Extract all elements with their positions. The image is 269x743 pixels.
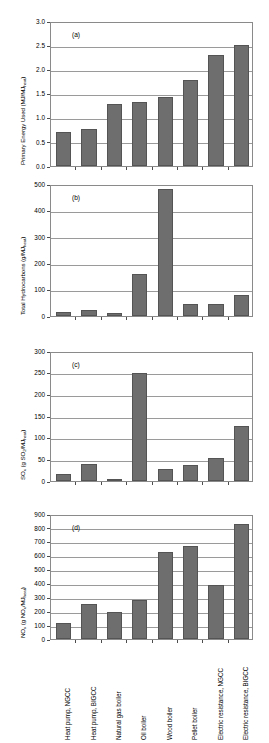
category-axis-label: Electric resistance, NGCC [218, 668, 224, 740]
panel-d-plot-area [50, 515, 253, 640]
y-axis-tick-mark [47, 528, 50, 529]
category-axis-label: Oil boiler [141, 716, 147, 740]
y-axis-tick-mark [47, 515, 50, 516]
bar [81, 604, 96, 639]
bar [234, 524, 249, 639]
category-axis-label: Heat pump, NGCC [65, 688, 71, 740]
bar [208, 585, 223, 639]
y-axis-tick-label: 100 [34, 623, 45, 629]
category-axis-label: Pellet boiler [192, 708, 198, 740]
category-axis-label: Natural gas boiler [116, 692, 122, 740]
y-axis-tick-label: 500 [34, 567, 45, 573]
panel-d: NOx (g NOx/MJheat) (d) 01002003004005006… [0, 0, 269, 743]
category-axis-label: Wood boiler [167, 707, 173, 740]
y-axis-tick-label: 300 [34, 595, 45, 601]
y-axis-tick-mark [47, 556, 50, 557]
y-axis-tick-label: 400 [34, 581, 45, 587]
gridline [51, 557, 252, 558]
y-axis-tick-mark [47, 612, 50, 613]
y-axis-tick-mark [47, 542, 50, 543]
category-axis-label: Heat pump, BIGCC [91, 687, 97, 740]
y-axis-tick-label: 700 [34, 539, 45, 545]
y-axis-tick-mark [47, 626, 50, 627]
gridline [51, 529, 252, 530]
category-axis-labels: Heat pump, NGCCHeat pump, BIGCCNatural g… [0, 640, 269, 743]
y-axis-tick-label: 600 [34, 553, 45, 559]
bar [56, 623, 71, 639]
gridline [51, 571, 252, 572]
y-axis-tick-mark [47, 584, 50, 585]
bar [107, 612, 122, 639]
y-axis-tick-label: 200 [34, 609, 45, 615]
bar [132, 600, 147, 639]
category-axis-label: Electric resistance, BIGCC [243, 667, 249, 740]
panel-d-tag: (d) [72, 525, 80, 532]
y-axis-tick-label: 800 [34, 526, 45, 532]
y-axis-tick-mark [47, 570, 50, 571]
y-axis-tick-mark [47, 598, 50, 599]
bar [183, 546, 198, 639]
y-axis-tick-label: 900 [34, 512, 45, 518]
gridline [51, 543, 252, 544]
bar [158, 552, 173, 639]
figure-multipanel-bar-charts: Primary Energy Used (MJ/MJheat) (a) 0.00… [0, 0, 269, 743]
